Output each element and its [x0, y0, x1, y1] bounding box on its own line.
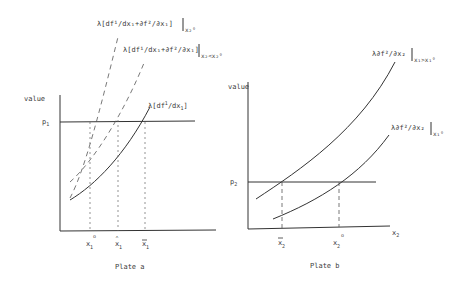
svg-text:^: ^ — [116, 235, 119, 241]
plate-b-condition-upper: x₁>x₁° — [414, 56, 436, 63]
svg-text:2: 2 — [282, 243, 285, 249]
plate-a-price-label: p1 — [42, 118, 49, 127]
plate-b: value p2 x2 λ∂f²/∂x₂ x₁>x₁° λ∂f²/∂x₂ x₁°… — [228, 48, 444, 270]
svg-text:2: 2 — [337, 243, 340, 249]
plate-a-condition-0: x₂° — [185, 26, 196, 33]
plate-a-x-axis — [60, 230, 216, 231]
plate-a-y-label: value — [24, 95, 45, 103]
plate-b-x-axis — [248, 226, 390, 229]
plate-b-label-lower: λ∂f²/∂x₂ — [391, 124, 425, 132]
plate-a-condition-lt: x₂<x₂° — [201, 52, 223, 59]
plate-b-curve-lower — [273, 135, 389, 219]
plate-a-tick-x1-hat: x 1 ^ — [115, 235, 122, 250]
plate-a-curve-sum-x2-0 — [70, 37, 118, 198]
svg-text:o: o — [93, 233, 96, 239]
svg-text:1: 1 — [146, 244, 149, 250]
plate-b-x-label: x2 — [392, 229, 399, 238]
plate-a-tick-x1-0: x 1 o — [86, 233, 96, 250]
plate-b-tick-x2-0: x 2 o — [333, 232, 344, 249]
plate-a-label-sum-x2-0: λ[df¹/dx₁+∂f²/∂x₁] — [97, 20, 173, 28]
plate-a-label-sum-x2-lt: λ[df¹/dx₁+∂f²/∂x₁] — [123, 46, 199, 54]
svg-text:1: 1 — [119, 244, 122, 250]
plate-a-curve-sum-x2-lt — [70, 63, 144, 182]
plate-a-price-line — [60, 121, 195, 122]
svg-text:o: o — [341, 232, 344, 238]
plate-a-label-marginal-1: λ[df1/dx1] — [148, 100, 188, 111]
plate-b-curve-upper — [256, 62, 395, 199]
plate-b-y-label: value — [228, 83, 249, 91]
plate-a-tick-x1-bar: x 1 — [142, 240, 149, 250]
plate-b-caption: Plate b — [310, 262, 340, 270]
plate-b-tick-x2-bar: x 2 — [278, 238, 285, 249]
plate-b-label-upper: λ∂f²/∂x₂ — [372, 50, 406, 58]
plate-a: value p1 λ[df1/dx1] λ[df¹/dx₁+∂f²/∂x₁] x… — [24, 18, 223, 271]
plate-a-caption: Plate a — [115, 263, 145, 271]
plate-b-condition-lower: x₁° — [433, 130, 444, 137]
svg-text:1: 1 — [90, 244, 93, 250]
diagram-canvas: value p1 λ[df1/dx1] λ[df¹/dx₁+∂f²/∂x₁] x… — [0, 0, 466, 289]
plate-b-price-label: p2 — [230, 178, 237, 187]
